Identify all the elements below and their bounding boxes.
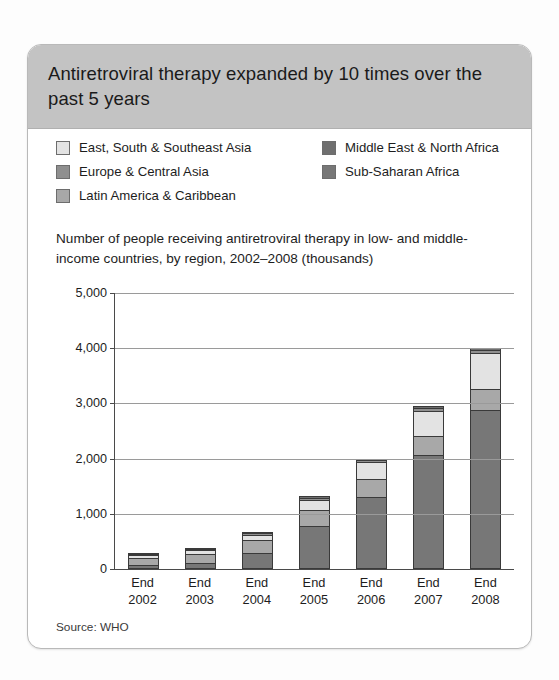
stacked-bar[interactable]	[185, 548, 217, 569]
bar-segment	[300, 527, 330, 568]
legend-swatch-icon	[322, 141, 336, 155]
x-axis-tick-label-line: 2005	[285, 592, 342, 609]
gridline	[115, 348, 514, 349]
legend-item[interactable]: Latin America & Caribbean	[56, 185, 251, 206]
bar-segment	[414, 412, 444, 437]
y-axis-tick-label: 0	[56, 562, 107, 576]
bar-slot	[229, 293, 286, 569]
source-note: Source: WHO	[56, 620, 129, 634]
y-axis-tick-label: 2,000	[56, 452, 107, 466]
x-axis-tick-label-line: End	[457, 575, 514, 592]
x-axis-tick-label-line: 2007	[400, 592, 457, 609]
x-axis-tick-label: End2007	[400, 575, 457, 608]
bar-segment	[357, 498, 387, 568]
bar-segment	[471, 411, 501, 568]
page-title: Antiretroviral therapy expanded by 10 ti…	[48, 61, 498, 111]
gridline	[115, 514, 514, 515]
bar-segment	[129, 566, 159, 568]
y-axis-tick-mark	[110, 459, 115, 460]
y-axis-tick-mark	[110, 569, 115, 570]
bar-segment	[129, 559, 159, 567]
bar-slot	[457, 293, 514, 569]
legend-swatch-icon	[56, 165, 70, 179]
chart-subtitle: Number of people receiving antiretrovira…	[56, 229, 511, 268]
legend-item-label: East, South & Southeast Asia	[79, 140, 251, 155]
x-axis-tick-label-line: 2008	[457, 592, 514, 609]
bar-segment	[243, 554, 273, 568]
bar-group	[115, 293, 514, 569]
stacked-bar[interactable]	[413, 406, 445, 569]
legend-item-label: Europe & Central Asia	[79, 164, 209, 179]
bar-slot	[343, 293, 400, 569]
y-axis-tick-label: 5,000	[56, 286, 107, 300]
x-axis-labels: End2002End2003End2004End2005End2006End20…	[114, 575, 514, 608]
legend-column-right: Middle East & North AfricaSub-Saharan Af…	[322, 137, 499, 185]
plot-canvas	[114, 293, 514, 570]
y-axis-tick-label: 4,000	[56, 341, 107, 355]
legend-column-left: East, South & Southeast AsiaEurope & Cen…	[56, 137, 251, 209]
legend-item[interactable]: Middle East & North Africa	[322, 137, 499, 158]
bar-segment	[186, 564, 216, 568]
bar-segment	[471, 354, 501, 389]
stacked-bar[interactable]	[299, 496, 331, 569]
bar-slot	[286, 293, 343, 569]
x-axis-tick-label: End2004	[228, 575, 285, 608]
legend-item[interactable]: Europe & Central Asia	[56, 161, 251, 182]
card-header: Antiretroviral therapy expanded by 10 ti…	[28, 45, 531, 129]
y-axis-tick-label: 1,000	[56, 507, 107, 521]
x-axis-tick-label: End2002	[114, 575, 171, 608]
y-axis-tick-label: 3,000	[56, 396, 107, 410]
bar-segment	[414, 456, 444, 568]
x-axis-tick-label: End2003	[171, 575, 228, 608]
bar-slot	[115, 293, 172, 569]
legend-item-label: Latin America & Caribbean	[79, 188, 236, 203]
plot-area: End2002End2003End2004End2005End2006End20…	[56, 285, 514, 585]
bar-slot	[400, 293, 457, 569]
legend-swatch-icon	[56, 141, 70, 155]
gridline	[115, 459, 514, 460]
bar-segment	[471, 390, 501, 411]
x-axis-tick-label-line: 2004	[228, 592, 285, 609]
x-axis-tick-label-line: 2006	[343, 592, 400, 609]
bar-segment	[300, 501, 330, 512]
chart-card: Antiretroviral therapy expanded by 10 ti…	[27, 44, 532, 649]
stacked-bar[interactable]	[128, 553, 160, 569]
y-axis-tick-mark	[110, 403, 115, 404]
y-axis-tick-mark	[110, 348, 115, 349]
y-axis-tick-mark	[110, 514, 115, 515]
bar-segment	[414, 437, 444, 457]
bar-segment	[357, 463, 387, 480]
legend-item[interactable]: East, South & Southeast Asia	[56, 137, 251, 158]
x-axis-tick-label: End2008	[457, 575, 514, 608]
y-axis-tick-mark	[110, 293, 115, 294]
x-axis-tick-label-line: 2003	[171, 592, 228, 609]
legend-item-label: Middle East & North Africa	[345, 140, 499, 155]
chart-legend: East, South & Southeast AsiaEurope & Cen…	[28, 137, 531, 211]
x-axis-tick-label-line: 2002	[114, 592, 171, 609]
x-axis-tick-label: End2006	[343, 575, 400, 608]
stacked-bar[interactable]	[242, 532, 274, 569]
x-axis-tick-label-line: End	[343, 575, 400, 592]
x-axis-tick-label: End2005	[285, 575, 342, 608]
legend-item-label: Sub-Saharan Africa	[345, 164, 459, 179]
legend-swatch-icon	[56, 189, 70, 203]
x-axis-tick-label-line: End	[114, 575, 171, 592]
gridline	[115, 293, 514, 294]
gridline	[115, 403, 514, 404]
bar-slot	[172, 293, 229, 569]
x-axis-tick-label-line: End	[400, 575, 457, 592]
page-root: Antiretroviral therapy expanded by 10 ti…	[0, 0, 559, 680]
legend-swatch-icon	[322, 165, 336, 179]
bar-segment	[243, 541, 273, 554]
x-axis-tick-label-line: End	[171, 575, 228, 592]
legend-item[interactable]: Sub-Saharan Africa	[322, 161, 499, 182]
x-axis-tick-label-line: End	[285, 575, 342, 592]
x-axis-tick-label-line: End	[228, 575, 285, 592]
bar-segment	[357, 480, 387, 498]
bar-segment	[186, 555, 216, 564]
